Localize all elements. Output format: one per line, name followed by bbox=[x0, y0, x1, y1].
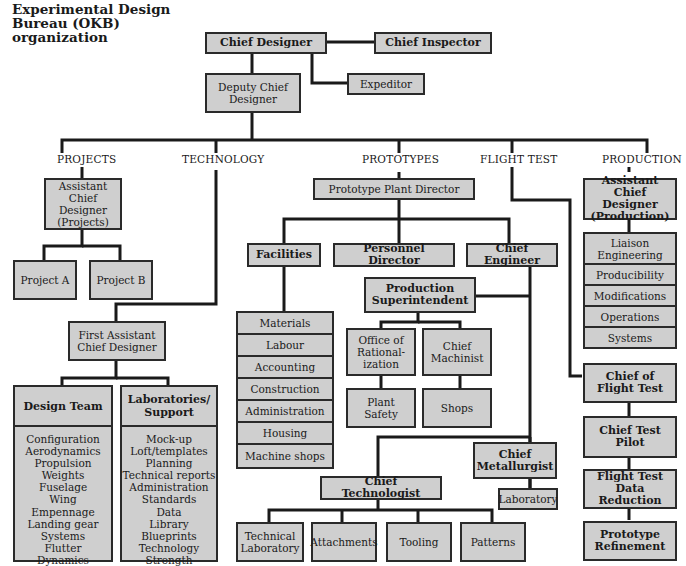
list-item: Technical reports bbox=[123, 469, 216, 481]
department-cell[interactable]: Materials bbox=[238, 313, 332, 335]
list-item: Empennage bbox=[31, 506, 94, 518]
flight-test-data-reduction-box[interactable]: Flight Test Data Reduction bbox=[583, 469, 677, 509]
list-item: Technology bbox=[139, 542, 199, 554]
list-item: Data bbox=[156, 506, 181, 518]
category-flight-test: FLIGHT TEST bbox=[478, 153, 559, 165]
department-cell[interactable]: Housing bbox=[238, 423, 332, 445]
list-item: Aerodynamics bbox=[25, 445, 100, 457]
list-item: Wing bbox=[49, 493, 76, 505]
list-item: Standards bbox=[142, 493, 197, 505]
department-cell[interactable]: Modifications bbox=[585, 286, 675, 307]
design-team-header: Design Team bbox=[15, 387, 111, 427]
list-item: Blueprints bbox=[141, 530, 197, 542]
list-item: Fuselage bbox=[39, 481, 87, 493]
category-production: PRODUCTION bbox=[600, 153, 684, 165]
category-projects: PROJECTS bbox=[55, 153, 118, 165]
chart-title: Experimental Design Bureau (OKB) organiz… bbox=[12, 2, 212, 44]
design-team-list[interactable]: Design Team ConfigurationAerodynamicsPro… bbox=[13, 385, 113, 562]
list-item: Strength bbox=[145, 554, 192, 566]
department-cell[interactable]: Labour bbox=[238, 335, 332, 357]
personnel-director-box[interactable]: Personnel Director bbox=[333, 243, 455, 267]
chief-technologist-box[interactable]: Chief Technologist bbox=[320, 476, 442, 500]
list-item: Dynamics bbox=[37, 554, 89, 566]
facilities-departments: MaterialsLabourAccountingConstructionAdm… bbox=[236, 311, 334, 469]
department-cell[interactable]: Administration bbox=[238, 401, 332, 423]
office-of-rationalization-box[interactable]: Office of Rational- ization bbox=[346, 328, 416, 376]
chief-designer-box[interactable]: Chief Designer bbox=[205, 32, 327, 54]
list-item: Planning bbox=[145, 457, 192, 469]
category-prototypes: PROTOTYPES bbox=[360, 153, 441, 165]
production-superintendent-box[interactable]: Production Superintendent bbox=[364, 277, 476, 313]
chief-machinist-box[interactable]: Chief Machinist bbox=[422, 328, 492, 376]
list-item: Propulsion bbox=[34, 457, 91, 469]
project-a-box[interactable]: Project A bbox=[13, 260, 77, 300]
facilities-box[interactable]: Facilities bbox=[247, 243, 321, 267]
assistant-chief-designer-projects-box[interactable]: Assistant Chief Designer (Projects) bbox=[44, 178, 122, 230]
list-item: Library bbox=[149, 518, 188, 530]
department-cell[interactable]: Operations bbox=[585, 307, 675, 328]
deputy-chief-designer-box[interactable]: Deputy Chief Designer bbox=[205, 73, 301, 113]
department-cell[interactable]: Producibility bbox=[585, 265, 675, 286]
project-b-box[interactable]: Project B bbox=[89, 260, 153, 300]
prototype-plant-director-box[interactable]: Prototype Plant Director bbox=[313, 178, 475, 200]
list-item: Weights bbox=[42, 469, 85, 481]
chief-of-flight-test-box[interactable]: Chief of Flight Test bbox=[583, 363, 677, 403]
attachments-box[interactable]: Attachments bbox=[311, 522, 377, 562]
list-item: Systems bbox=[41, 530, 85, 542]
design-team-items: ConfigurationAerodynamicsPropulsionWeigh… bbox=[15, 427, 111, 566]
first-assistant-chief-designer-box[interactable]: First Assistant Chief Designer bbox=[68, 321, 166, 361]
chief-inspector-box[interactable]: Chief Inspector bbox=[374, 32, 492, 54]
department-cell[interactable]: Machine shops bbox=[238, 445, 332, 467]
department-cell[interactable]: Systems bbox=[585, 328, 675, 347]
plant-safety-box[interactable]: Plant Safety bbox=[346, 388, 416, 428]
chief-test-pilot-box[interactable]: Chief Test Pilot bbox=[583, 416, 677, 458]
list-item: Administration bbox=[129, 481, 208, 493]
tooling-box[interactable]: Tooling bbox=[386, 522, 452, 562]
shops-box[interactable]: Shops bbox=[422, 388, 492, 428]
list-item: Landing gear bbox=[27, 518, 98, 530]
laboratories-support-items: Mock-upLoft/templatesPlanningTechnical r… bbox=[122, 427, 216, 566]
technical-laboratory-box[interactable]: Technical Laboratory bbox=[236, 522, 304, 562]
expeditor-box[interactable]: Expeditor bbox=[347, 73, 425, 95]
assistant-chief-designer-production-box[interactable]: Assistant Chief Designer (Production) bbox=[583, 178, 677, 220]
list-item: Flutter bbox=[44, 542, 81, 554]
laboratory-box[interactable]: Laboratory bbox=[498, 488, 558, 510]
department-cell[interactable]: Liaison Engineering bbox=[585, 234, 675, 265]
department-cell[interactable]: Construction bbox=[238, 379, 332, 401]
department-cell[interactable]: Accounting bbox=[238, 357, 332, 379]
laboratories-support-header: Laboratories/ Support bbox=[122, 387, 216, 427]
production-departments: Liaison EngineeringProducibilityModifica… bbox=[583, 232, 677, 349]
category-technology: TECHNOLOGY bbox=[180, 153, 266, 165]
laboratories-support-list[interactable]: Laboratories/ Support Mock-upLoft/templa… bbox=[120, 385, 218, 562]
patterns-box[interactable]: Patterns bbox=[460, 522, 526, 562]
list-item: Configuration bbox=[26, 433, 100, 445]
chief-engineer-box[interactable]: Chief Engineer bbox=[466, 243, 558, 267]
list-item: Mock-up bbox=[146, 433, 192, 445]
list-item: Loft/templates bbox=[130, 445, 208, 457]
chief-metallurgist-box[interactable]: Chief Metallurgist bbox=[473, 442, 557, 479]
prototype-refinement-box[interactable]: Prototype Refinement bbox=[583, 521, 677, 561]
